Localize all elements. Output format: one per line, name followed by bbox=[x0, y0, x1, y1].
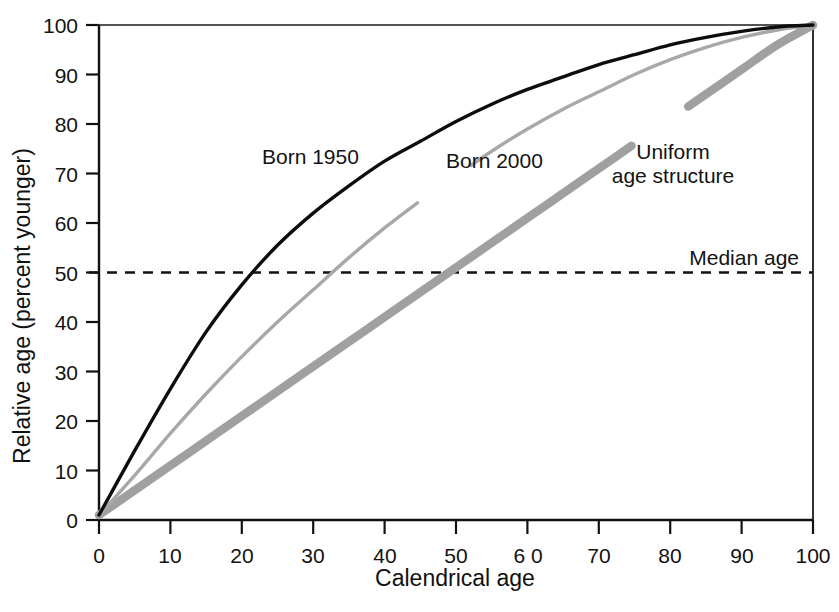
x-tick-label-100: 100 bbox=[795, 545, 830, 566]
y-tick-label-50: 50 bbox=[28, 262, 78, 283]
x-tick-label-50: 50 bbox=[444, 545, 467, 566]
chart-figure: 0 10 20 30 40 50 60 70 80 90 100 0 10 20… bbox=[0, 0, 839, 612]
y-tick-label-70: 70 bbox=[28, 163, 78, 184]
series-label-uniform-age-structure: Uniform age structure bbox=[612, 140, 735, 188]
median-age-label: Median age bbox=[689, 246, 799, 270]
y-tick-label-100: 100 bbox=[28, 15, 78, 36]
x-tick-label-20: 20 bbox=[230, 545, 253, 566]
series-label-born-2000: Born 2000 bbox=[446, 149, 543, 173]
plot-canvas bbox=[0, 0, 839, 612]
series-label-born-1950: Born 1950 bbox=[262, 145, 359, 169]
x-axis-title: Calendrical age bbox=[375, 567, 535, 590]
y-tick-label-30: 30 bbox=[28, 361, 78, 382]
x-tick-label-0: 0 bbox=[93, 545, 105, 566]
y-tick-label-90: 90 bbox=[28, 64, 78, 85]
x-tick-label-70: 70 bbox=[587, 545, 610, 566]
series-label-uniform-line-2: age structure bbox=[612, 164, 735, 188]
series-label-uniform-line-1: Uniform bbox=[612, 140, 735, 164]
x-tick-label-80: 80 bbox=[658, 545, 681, 566]
y-tick-label-10: 10 bbox=[28, 460, 78, 481]
x-tick-label-10: 10 bbox=[158, 545, 181, 566]
y-tick-label-0: 0 bbox=[28, 510, 78, 531]
y-tick-label-40: 40 bbox=[28, 312, 78, 333]
y-tick-label-80: 80 bbox=[28, 114, 78, 135]
x-tick-label-30: 30 bbox=[301, 545, 324, 566]
y-tick-label-20: 20 bbox=[28, 411, 78, 432]
y-axis-title: Relative age (percent younger) bbox=[11, 148, 34, 464]
y-tick-label-60: 60 bbox=[28, 213, 78, 234]
x-tick-label-40: 40 bbox=[373, 545, 396, 566]
x-axis-ticks bbox=[99, 520, 813, 534]
x-tick-label-60: 6 0 bbox=[513, 545, 542, 566]
x-tick-label-90: 90 bbox=[730, 545, 753, 566]
